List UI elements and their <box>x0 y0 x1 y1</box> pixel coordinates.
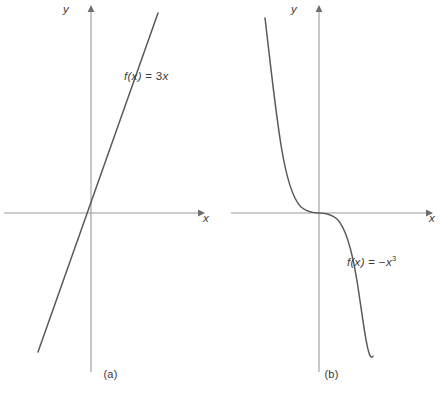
negative-sign-b: − <box>379 256 386 268</box>
y-axis-label-b: y <box>291 3 297 15</box>
variable-a: x <box>163 70 169 82</box>
y-axis-label-a: y <box>63 3 69 15</box>
function-label-b: f(x) = −x3 <box>347 256 396 268</box>
caption-a: (a) <box>0 368 221 380</box>
x-axis-label-a: x <box>203 212 209 224</box>
exponent-b: 3 <box>392 254 396 263</box>
function-label-a: f(x) = 3x <box>124 70 169 82</box>
coefficient-a: 3 <box>156 70 163 82</box>
equals-sign-b: = <box>368 256 375 268</box>
y-axis-arrow-b <box>316 5 323 12</box>
caption-b: (b) <box>221 368 442 380</box>
function-notation-a: f(x) <box>124 70 142 82</box>
panel-a: y x f(x) = 3x (a) <box>0 0 221 396</box>
function-notation-b: f(x) <box>347 256 365 268</box>
panel-b: y x f(x) = −x3 (b) <box>221 0 442 396</box>
figure-container: y x f(x) = 3x (a) y x f(x) = −x3 (b) <box>0 0 442 396</box>
curve-linear-a <box>38 13 158 352</box>
y-axis-arrow-a <box>88 5 95 12</box>
x-axis-label-b: x <box>429 212 435 224</box>
plot-a <box>0 0 221 372</box>
equals-sign-a: = <box>145 70 152 82</box>
plot-b <box>221 0 442 372</box>
